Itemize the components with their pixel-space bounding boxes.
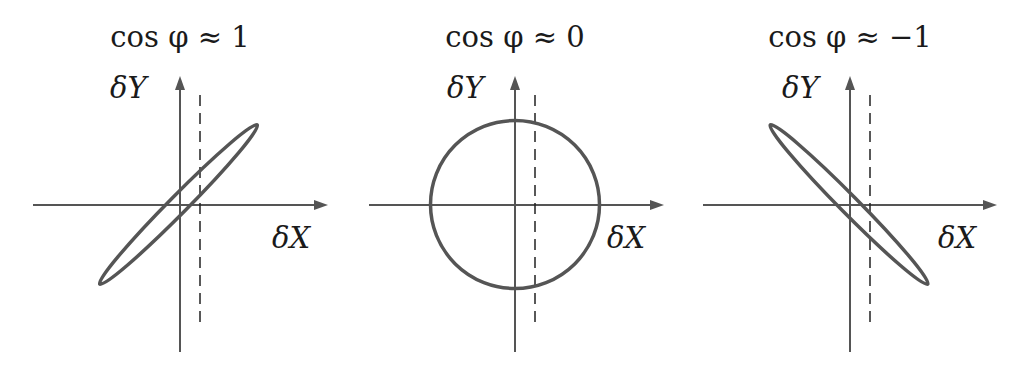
panel-title: cos φ ≈ −1 (768, 20, 932, 54)
lissajous-figure: cos φ ≈ 1 δY δX cos φ ≈ 0 δY δX cos φ ≈ … (0, 0, 1022, 366)
panel-title: cos φ ≈ 0 (445, 20, 584, 54)
panel-cos-1: cos φ ≈ 1 δY δX (33, 20, 328, 352)
x-axis-label: δX (607, 221, 646, 255)
panel-cos-0: cos φ ≈ 0 δY δX (369, 20, 664, 352)
y-axis-arrow-icon (175, 76, 185, 90)
y-axis-label: δY (782, 71, 821, 105)
panel-cos-minus-1: cos φ ≈ −1 δY δX (703, 20, 997, 352)
x-axis-arrow-icon (314, 200, 328, 210)
x-axis-arrow-icon (983, 200, 997, 210)
x-axis-label: δX (938, 221, 977, 255)
x-axis-label: δX (272, 221, 311, 255)
y-axis-label: δY (447, 71, 486, 105)
y-axis-arrow-icon (845, 76, 855, 90)
panel-title: cos φ ≈ 1 (110, 20, 249, 54)
y-axis-label: δY (110, 71, 149, 105)
y-axis-arrow-icon (510, 76, 520, 90)
x-axis-arrow-icon (650, 200, 664, 210)
